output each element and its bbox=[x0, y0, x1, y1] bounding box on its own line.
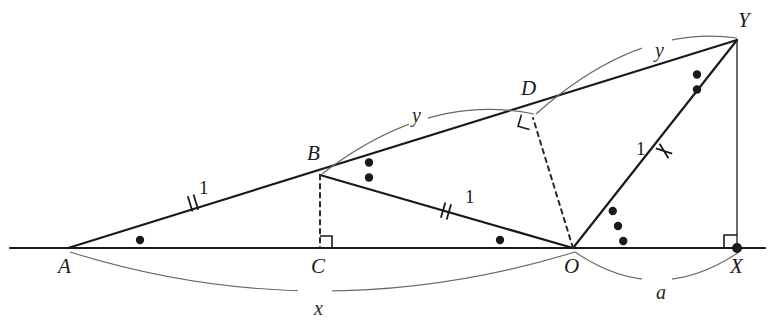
arc-y-B-to-D-label: y bbox=[409, 105, 424, 125]
point-dots-layer bbox=[732, 243, 742, 253]
angle-dot-B bbox=[365, 158, 373, 181]
point-label-a: A bbox=[58, 256, 71, 277]
angle-dots-layer bbox=[136, 70, 701, 245]
tick-OY-length-label: 1 bbox=[636, 139, 646, 158]
point-label-b: B bbox=[307, 143, 320, 164]
arc-x-A-to-O-label: x bbox=[311, 298, 326, 318]
arcs-layer bbox=[70, 33, 739, 310]
point-label-d: D bbox=[521, 78, 536, 99]
angle-dot-A bbox=[136, 236, 144, 244]
angle-dot-O-BOA bbox=[496, 236, 504, 244]
tick-AB-length-label: 1 bbox=[199, 178, 209, 197]
right-angle-at-C bbox=[320, 236, 332, 248]
right-angle-at-D bbox=[518, 115, 530, 130]
point-label-o: O bbox=[564, 256, 579, 277]
altitude-O-D bbox=[533, 118, 573, 248]
arc-a-O-to-X-label: a bbox=[653, 282, 669, 302]
arc-y-D-to-Y-label: y bbox=[652, 40, 667, 60]
geometry-diagram-canvas: ACOXBDY111xayy bbox=[0, 0, 775, 328]
segment-O-Y bbox=[573, 40, 737, 248]
right-angles-layer bbox=[320, 115, 737, 248]
point-label-x: X bbox=[730, 256, 743, 277]
point-dot-x bbox=[732, 243, 742, 253]
angle-dot-O-YOX bbox=[609, 207, 628, 245]
point-label-c: C bbox=[311, 256, 325, 277]
tick-OY bbox=[656, 144, 672, 159]
tick-marks-layer bbox=[188, 144, 672, 220]
segments-layer bbox=[10, 40, 765, 248]
segment-B-O bbox=[320, 175, 573, 248]
angle-dot-Y bbox=[693, 70, 701, 93]
tick-BO-length-label: 1 bbox=[465, 187, 475, 206]
point-label-y: Y bbox=[738, 10, 750, 31]
arc-y-D-to-Y bbox=[536, 36, 737, 114]
